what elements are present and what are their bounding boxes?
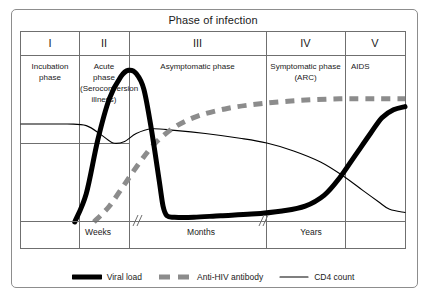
viral-load-curve [75,70,405,222]
time-label-weeks: Weeks [63,227,133,237]
time-label-months: Months [161,227,241,237]
legend-label-antibody: Anti-HIV antibody [197,272,263,282]
legend-label-viral-load: Viral load [107,272,142,282]
cd4-swatch-icon [279,273,309,281]
legend-item-viral-load: Viral load [72,272,142,282]
chart-box: I II III IV V Incubation phase Acute pha… [20,31,406,249]
viral-load-swatch-icon [72,273,102,281]
curve-group [21,70,405,222]
axis-break-2 [259,215,268,226]
anti-hiv-antibody-curve [94,99,405,222]
legend: Viral load Anti-HIV antibody CD4 count [20,272,406,282]
time-label-years: Years [271,227,351,237]
legend-item-cd4-count: CD4 count [279,272,354,282]
legend-item-antibody: Anti-HIV antibody [158,272,263,282]
hiv-infection-phase-diagram: Phase of infection I II III IV V Incubat… [0,0,430,297]
legend-label-cd4-count: CD4 count [314,272,354,282]
figure-title: Phase of infection [20,14,406,26]
antibody-swatch-icon [158,273,192,281]
axis-break-1 [133,215,142,226]
